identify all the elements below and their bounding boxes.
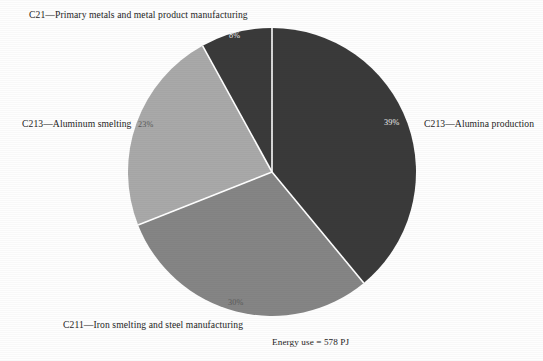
- slice-value-alumina-production: 39%: [384, 118, 400, 127]
- slice-label-primary-metals: C21—Primary metals and metal product man…: [29, 9, 248, 21]
- chart-caption: Energy use = 578 PJ: [272, 337, 349, 347]
- slice-value-primary-metals: 8%: [229, 31, 240, 40]
- pie-chart: [127, 27, 417, 317]
- slice-value-aluminum-smelting: 23%: [138, 120, 154, 129]
- slice-label-alumina-production: C213—Alumina production: [424, 118, 534, 130]
- slice-label-aluminum-smelting: C213—Aluminum smelting: [22, 118, 132, 130]
- pie-chart-svg: [127, 27, 417, 317]
- slice-label-iron-steel: C211—Iron smelting and steel manufacturi…: [63, 319, 243, 331]
- pie-chart-figure: C21—Primary metals and metal product man…: [0, 0, 543, 361]
- slice-value-iron-steel: 30%: [228, 298, 244, 307]
